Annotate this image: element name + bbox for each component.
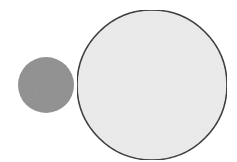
small-circle bbox=[18, 57, 74, 113]
diagram-canvas bbox=[0, 0, 237, 162]
circles-diagram bbox=[0, 0, 237, 162]
large-circle bbox=[77, 10, 227, 160]
